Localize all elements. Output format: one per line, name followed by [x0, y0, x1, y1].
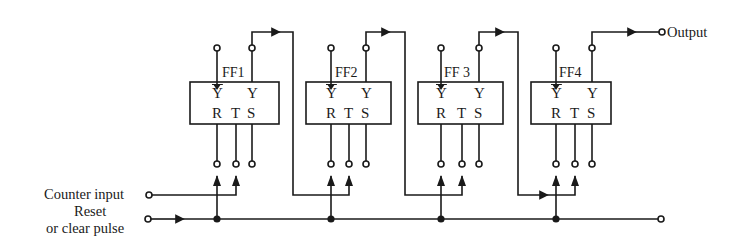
- ff4-t-pin: T: [570, 106, 579, 121]
- reset-end-terminal: [658, 216, 664, 222]
- ff2-r-pin: R: [326, 106, 336, 121]
- ff1-ybar-pin: Y: [212, 86, 223, 101]
- ff3-r-pin: R: [436, 106, 446, 121]
- ff1-y-pin: Y: [247, 86, 258, 101]
- ff4-y-pin: Y: [587, 86, 598, 101]
- ff1-t-pin: T: [231, 106, 240, 121]
- ff4-s-pin: S: [587, 106, 595, 121]
- output-label: Output: [667, 25, 707, 40]
- output-terminal: [659, 29, 665, 35]
- ff2-s-pin: S: [361, 106, 369, 121]
- ff4-ybar-pin: Y: [551, 86, 562, 101]
- counter-input-wire: [146, 176, 236, 198]
- ff3-y-pin: Y: [474, 86, 485, 101]
- clear-pulse-label: or clear pulse: [46, 221, 124, 236]
- ff2-y-pin: Y: [361, 86, 372, 101]
- ff4-r-pin: R: [551, 106, 561, 121]
- ff1-s-pin: S: [247, 106, 255, 121]
- ff3-t-pin: T: [457, 106, 466, 121]
- ff2-label: FF2: [335, 66, 358, 80]
- ff3-ybar-pin: Y: [436, 86, 447, 101]
- ff3-label: FF 3: [444, 66, 470, 80]
- ff3-s-pin: S: [474, 106, 482, 121]
- counter-input-label: Counter input: [44, 187, 124, 202]
- ripple-counter-diagram: FF1 FF2 FF 3 FF4 Y Y R T S Y Y R T S Y Y…: [0, 0, 750, 250]
- ybar-pins: [213, 45, 560, 90]
- ff1-label: FF1: [222, 66, 245, 80]
- ff2-ybar-pin: Y: [326, 86, 337, 101]
- reset-label: Reset: [74, 204, 106, 219]
- ff2-t-pin: T: [344, 106, 353, 121]
- ff1-r-pin: R: [212, 106, 222, 121]
- circuit-wiring: [0, 0, 750, 250]
- input-arrows: [213, 175, 579, 186]
- ff4-label: FF4: [559, 66, 582, 80]
